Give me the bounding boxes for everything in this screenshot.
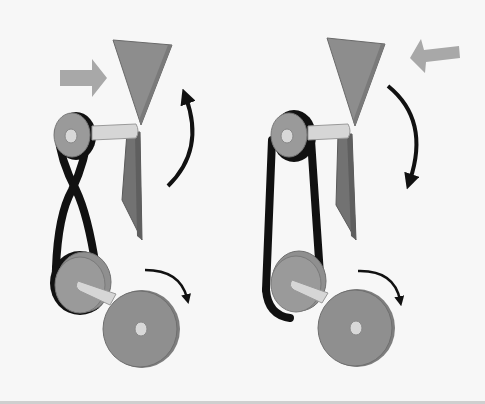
- fan-shaft: [308, 124, 350, 140]
- crossed-belt-panel: [50, 40, 192, 368]
- rotation-arrow-up-icon: [168, 98, 192, 186]
- motor-wheel: [318, 289, 395, 367]
- diagram-canvas: [0, 0, 485, 402]
- airflow-arrow-right-icon: [60, 59, 107, 97]
- open-belt-panel: [266, 38, 460, 367]
- airflow-arrow-left-icon: [410, 39, 460, 73]
- fan-shaft: [92, 124, 138, 140]
- rotation-arrow-down-icon: [388, 86, 416, 180]
- motor-wheel: [103, 290, 180, 368]
- belt-drive-diagram: [0, 0, 485, 402]
- drive-pulley: [271, 251, 326, 312]
